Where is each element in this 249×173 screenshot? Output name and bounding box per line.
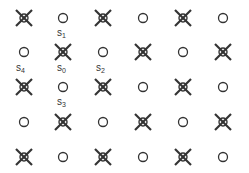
crossed-circle-icon	[53, 112, 73, 132]
site-label-s2: s2	[96, 63, 105, 74]
circle-icon	[53, 8, 73, 28]
site-label-s0: s0	[57, 63, 66, 74]
circle-icon	[133, 8, 153, 28]
crossed-circle-icon	[14, 77, 34, 97]
circle-icon	[213, 77, 233, 97]
crossed-circle-icon	[133, 112, 153, 132]
circle-icon	[213, 147, 233, 167]
circle-icon	[14, 112, 34, 132]
circle-icon	[213, 8, 233, 28]
circle-icon	[93, 42, 113, 62]
circle-icon	[53, 77, 73, 97]
lattice-diagram: s1s4s0s2s3	[0, 0, 249, 173]
site-label-s3: s3	[57, 97, 66, 108]
crossed-circle-icon	[53, 42, 73, 62]
site-label-s1: s1	[57, 28, 66, 39]
circle-icon	[14, 42, 34, 62]
circle-icon	[173, 42, 193, 62]
crossed-circle-icon	[173, 8, 193, 28]
crossed-circle-icon	[173, 147, 193, 167]
crossed-circle-icon	[213, 42, 233, 62]
crossed-circle-icon	[213, 112, 233, 132]
site-label-s4: s4	[16, 63, 25, 74]
crossed-circle-icon	[173, 77, 193, 97]
crossed-circle-icon	[133, 42, 153, 62]
crossed-circle-icon	[93, 77, 113, 97]
crossed-circle-icon	[14, 8, 34, 28]
circle-icon	[133, 77, 153, 97]
crossed-circle-icon	[93, 147, 113, 167]
circle-icon	[173, 112, 193, 132]
crossed-circle-icon	[93, 8, 113, 28]
circle-icon	[133, 147, 153, 167]
circle-icon	[93, 112, 113, 132]
circle-icon	[53, 147, 73, 167]
crossed-circle-icon	[14, 147, 34, 167]
